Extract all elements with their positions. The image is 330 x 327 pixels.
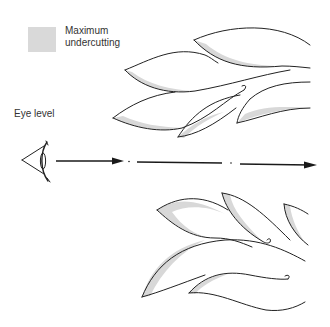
- eye-icon: [22, 141, 50, 182]
- leaf-lower-h: [284, 204, 308, 245]
- leaf-lower-i: [142, 240, 305, 297]
- line-of-sight: [56, 158, 317, 169]
- leaf-lower-j: [189, 273, 305, 310]
- arrowhead-icon: [112, 158, 124, 165]
- leaf-upper-d: [178, 95, 240, 138]
- undercutting-diagram: [0, 0, 330, 327]
- upper-leaf-cluster: [113, 28, 310, 138]
- leaf-upper-a: [194, 28, 310, 68]
- leaf-lower-g: [222, 193, 290, 243]
- leaf-upper-e: [237, 82, 310, 123]
- leaf-upper-b: [125, 52, 290, 92]
- arrowhead-icon: [304, 162, 317, 169]
- lower-leaf-cluster: [142, 193, 308, 311]
